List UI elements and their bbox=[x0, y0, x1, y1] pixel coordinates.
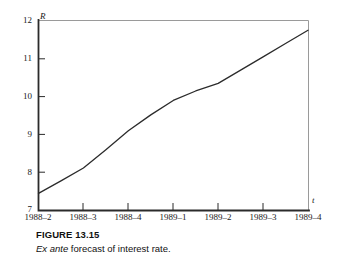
y-tick-label: 9 bbox=[10, 130, 32, 139]
x-axis-name: t bbox=[312, 196, 315, 205]
figure-number: FIGURE 13.15 bbox=[36, 228, 326, 241]
y-tick-label: 10 bbox=[10, 92, 32, 101]
chart-plot-area: R t 12 11 10 9 8 7 1988–2 1988–3 1988–4 … bbox=[0, 0, 337, 226]
y-axis-name: R bbox=[40, 12, 46, 21]
figure-description: Ex ante forecast of interest rate. bbox=[36, 242, 326, 255]
y-tick-marks bbox=[39, 59, 45, 172]
y-tick-label: 11 bbox=[10, 54, 32, 63]
caption-rest: forecast of interest rate. bbox=[68, 243, 170, 254]
x-tick-label: 1989–4 bbox=[285, 213, 331, 222]
figure-container: R t 12 11 10 9 8 7 1988–2 1988–3 1988–4 … bbox=[0, 0, 337, 266]
y-tick-label: 8 bbox=[10, 168, 32, 177]
axis-lines bbox=[39, 20, 310, 211]
x-tick-label: 1988–2 bbox=[15, 213, 61, 222]
figure-caption: FIGURE 13.15 Ex ante forecast of interes… bbox=[36, 228, 326, 255]
forecast-line bbox=[39, 30, 309, 193]
x-tick-label: 1988–4 bbox=[105, 213, 151, 222]
x-tick-label: 1989–3 bbox=[240, 213, 286, 222]
x-tick-label: 1989–1 bbox=[150, 213, 196, 222]
x-tick-label: 1988–3 bbox=[60, 213, 106, 222]
chart-svg bbox=[0, 0, 337, 226]
x-tick-marks bbox=[83, 203, 263, 210]
x-tick-label: 1989–2 bbox=[195, 213, 241, 222]
caption-emphasis: Ex ante bbox=[36, 243, 68, 254]
y-tick-label: 12 bbox=[10, 16, 32, 25]
plot-frame-light bbox=[38, 21, 309, 211]
